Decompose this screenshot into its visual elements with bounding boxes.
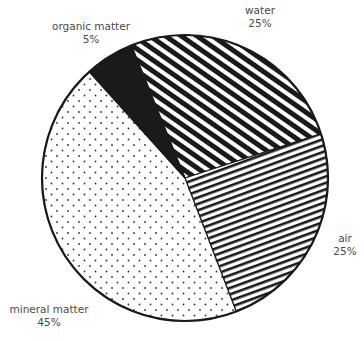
- pie-chart: [0, 0, 364, 341]
- pie-slices: [42, 35, 328, 321]
- label-water: water 25%: [236, 4, 284, 30]
- label-organic-matter: organic matter 5%: [48, 20, 134, 46]
- label-air: air 25%: [328, 232, 362, 258]
- label-water-pct: 25%: [236, 17, 284, 30]
- label-mineral-pct: 45%: [6, 316, 92, 329]
- label-mineral-name: mineral matter: [6, 303, 92, 316]
- label-air-name: air: [328, 232, 362, 245]
- label-mineral-matter: mineral matter 45%: [6, 303, 92, 329]
- label-organic-pct: 5%: [48, 33, 134, 46]
- label-air-pct: 25%: [328, 245, 362, 258]
- label-organic-name: organic matter: [48, 20, 134, 33]
- label-water-name: water: [236, 4, 284, 17]
